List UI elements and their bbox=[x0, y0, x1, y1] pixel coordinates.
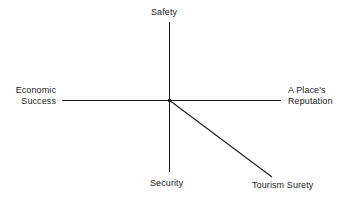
axis-label-a-places-reputation: A Place'sReputation bbox=[288, 85, 344, 107]
axis-label-economic-success-line2: Success bbox=[21, 96, 56, 106]
vector-label-tourism-surety: Tourism Surety bbox=[252, 180, 313, 191]
axis-label-economic-success: EconomicSuccess bbox=[4, 85, 56, 107]
axis-label-economic-success-line1: Economic bbox=[16, 85, 56, 95]
axis-label-security: Security bbox=[150, 178, 183, 189]
diagram-canvas: Safety EconomicSuccess A Place'sReputati… bbox=[0, 0, 345, 206]
axis-label-safety: Safety bbox=[151, 7, 177, 18]
axis-label-a-places-reputation-line2: Reputation bbox=[288, 96, 333, 106]
origin-marker bbox=[168, 99, 171, 102]
tourism-surety-vector-line bbox=[169, 100, 272, 177]
axis-label-a-places-reputation-line1: A Place's bbox=[288, 85, 326, 95]
